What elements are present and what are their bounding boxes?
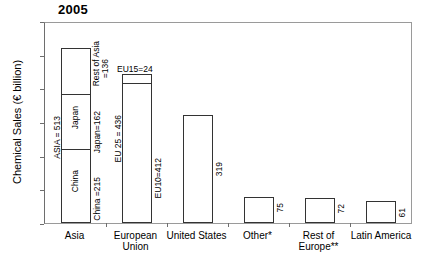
x-category-us-label: United States (166, 230, 226, 241)
y-tick-mark-0 (40, 224, 44, 225)
x-category-other-label: Other* (243, 230, 272, 241)
x-category-roe-label-line1: Rest of (303, 230, 335, 241)
bar-asia[interactable]: China Japan (61, 50, 91, 223)
bar-label-asia-total: ASIA = 513 (53, 116, 62, 159)
bar-segment-eu10 (122, 83, 152, 223)
bar-segment-label-japan: Japan (71, 106, 80, 129)
x-category-rest-of-europe: Rest of Europe** (288, 230, 349, 252)
x-tick-4 (289, 223, 290, 227)
x-tick-2 (167, 223, 168, 227)
x-category-eu-label-line1: European (114, 230, 157, 241)
bar-other[interactable] (244, 197, 274, 223)
x-category-other: Other* (227, 230, 288, 241)
chart-title: 2005 (58, 2, 88, 17)
x-tick-1 (106, 223, 107, 227)
x-category-asia-label: Asia (65, 230, 84, 241)
x-tick-5 (350, 223, 351, 227)
bar-latin-america[interactable] (366, 201, 396, 223)
bar-segment-asia-china: China (61, 149, 91, 223)
x-category-roe-label-line2: Europe** (298, 241, 338, 252)
x-category-latam-label: Latin America (351, 230, 412, 241)
bar-label-eu15: EU15=24 (117, 64, 153, 74)
bar-label-eu10: EU10=412 (154, 158, 163, 198)
x-tick-3 (228, 223, 229, 227)
x-category-asia: Asia (44, 230, 105, 241)
bar-label-other: 75 (276, 203, 285, 212)
chart-2005-chemical-sales: 2005 Chemical Sales (€ billion) 0 100 20… (0, 0, 421, 261)
y-axis-title: Chemical Sales (€ billion) (11, 17, 23, 227)
bar-label-latin-america: 61 (398, 208, 407, 217)
bar-segment-asia-japan: Japan (61, 94, 91, 150)
bar-segment-asia-rest (61, 48, 91, 95)
bar-label-asia-rest-value-line2: =136 (101, 59, 110, 78)
x-category-united-states: United States (166, 230, 227, 241)
bar-segment-eu15 (122, 74, 152, 84)
bar-label-eu25-total: EU 25 = 436 (114, 115, 123, 163)
bar-label-united-states: 319 (215, 162, 224, 176)
bar-label-asia-china-value: China =215 (93, 177, 102, 221)
bar-label-rest-of-europe: 72 (337, 204, 346, 213)
x-category-eu-label-line2: Union (122, 241, 148, 252)
x-category-european-union: European Union (105, 230, 166, 252)
bar-united-states[interactable] (183, 115, 213, 223)
bar-rest-of-europe[interactable] (305, 198, 335, 223)
plot-area: China Japan ASIA = 513 China =215 Japan=… (44, 22, 412, 224)
bar-european-union[interactable] (122, 76, 152, 223)
x-category-latin-america: Latin America (346, 230, 416, 241)
bar-segment-label-china: China (71, 170, 80, 192)
bar-label-asia-japan-value: Japan=162 (93, 111, 102, 153)
